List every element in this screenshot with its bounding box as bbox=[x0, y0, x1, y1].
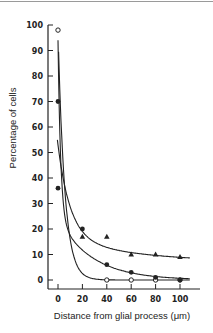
filled-circle-marker bbox=[178, 278, 183, 283]
filled-circle-marker bbox=[104, 262, 109, 267]
y-tick-label: 90 bbox=[32, 47, 44, 56]
filled-circle-marker bbox=[129, 270, 134, 275]
y-tick-label: 70 bbox=[32, 98, 44, 107]
fit-curve bbox=[58, 40, 190, 278]
y-tick-label: 0 bbox=[37, 276, 43, 285]
y-axis-label: Percentage of cells bbox=[7, 87, 18, 168]
x-axis-label: Distance from glial process (μm) bbox=[54, 310, 190, 321]
x-tick-label: 40 bbox=[101, 295, 113, 304]
triangle-marker bbox=[104, 234, 110, 239]
y-tick-label: 50 bbox=[32, 149, 44, 158]
x-tick-label: 100 bbox=[172, 295, 189, 304]
y-tick-label: 40 bbox=[32, 174, 44, 183]
data-points bbox=[56, 28, 183, 283]
y-tick-label: 20 bbox=[32, 225, 44, 234]
filled-circle-marker bbox=[153, 275, 158, 280]
open-circle-marker bbox=[105, 278, 109, 282]
caption-fragment bbox=[0, 326, 213, 333]
open-circle-marker bbox=[56, 28, 60, 32]
y-tick-label: 30 bbox=[32, 200, 44, 209]
filled-circle-marker bbox=[56, 186, 61, 191]
triangle-marker bbox=[177, 254, 183, 259]
filled-circle-marker bbox=[56, 99, 61, 104]
open-circle-marker bbox=[129, 278, 133, 282]
x-tick-label: 80 bbox=[150, 295, 162, 304]
x-tick-label: 20 bbox=[77, 295, 89, 304]
y-tick-label: 10 bbox=[32, 251, 44, 260]
axes: 0102030405060708090100020406080100 bbox=[26, 21, 200, 304]
y-tick-label: 80 bbox=[32, 72, 44, 81]
y-tick-label: 100 bbox=[26, 21, 43, 30]
filled-circle-marker bbox=[80, 227, 85, 232]
y-tick-label: 60 bbox=[32, 123, 44, 132]
x-tick-label: 0 bbox=[55, 295, 61, 304]
triangle-marker bbox=[153, 252, 159, 257]
x-tick-label: 60 bbox=[126, 295, 138, 304]
fit-curves bbox=[57, 40, 189, 280]
chart: 0102030405060708090100020406080100 Dista… bbox=[0, 0, 213, 333]
fit-curve bbox=[57, 140, 189, 258]
